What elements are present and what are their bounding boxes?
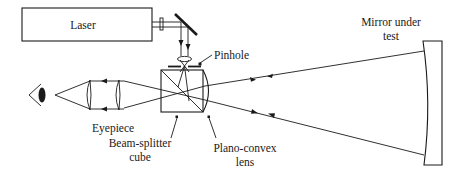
mirror-label-2: test	[383, 30, 400, 42]
focusing-lens	[178, 56, 192, 61]
plano-convex-lens	[203, 70, 209, 112]
fold-mirror	[175, 14, 197, 35]
pinhole-label: Pinhole	[214, 49, 249, 61]
arrow-left-icon	[268, 113, 275, 118]
arrow-down-icon	[179, 40, 184, 46]
plano-convex-label-2: lens	[236, 156, 255, 168]
mirror-under-test	[423, 41, 442, 165]
arrow-left-icon	[101, 107, 107, 112]
arrow-down-icon	[186, 44, 191, 50]
laser: Laser	[22, 8, 152, 41]
arrow-left-icon	[267, 74, 273, 78]
laser-label: Laser	[70, 19, 96, 31]
arrow-left-icon	[101, 79, 107, 84]
mirror-label: Mirror under	[361, 16, 421, 28]
beam-splitter-label-2: cube	[129, 151, 151, 163]
eyepiece-label: Eyepiece	[92, 122, 134, 135]
plano-convex-label: Plano-convex	[213, 142, 276, 154]
beam-filter	[160, 18, 163, 30]
eye-icon	[29, 84, 46, 106]
eyepiece-lens-pair	[55, 79, 124, 112]
arrow-right-icon	[251, 109, 258, 114]
optical-diagram: Laser Pinhole	[0, 0, 464, 178]
beam-splitter-label: Beam-splitter	[109, 137, 172, 150]
